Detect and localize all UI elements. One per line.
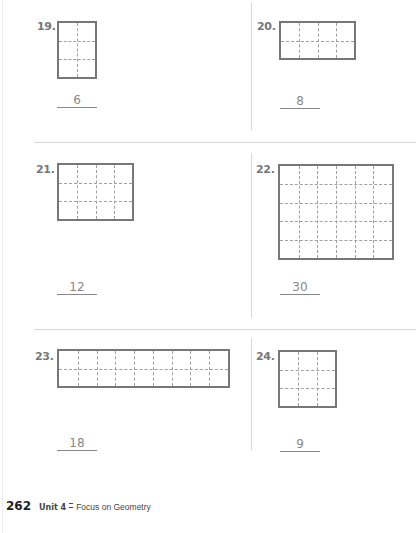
unit-label: Unit 4	[39, 503, 66, 512]
problem-number: 21.	[36, 163, 55, 176]
answer-line	[280, 451, 320, 452]
answer-line	[57, 294, 97, 295]
unit-title: Focus on Geometry	[76, 502, 151, 512]
answer-value: 9	[280, 437, 320, 451]
rectangle-grid	[278, 350, 337, 408]
rectangle-grid	[57, 163, 134, 221]
rectangle-grid	[57, 21, 97, 79]
column-divider-1	[251, 3, 252, 130]
rectangle-grid	[57, 349, 230, 388]
answer-value: 12	[57, 280, 97, 294]
answer-value: 30	[280, 280, 320, 294]
grid-column-line	[355, 166, 356, 258]
answer-line	[280, 294, 320, 295]
answer-line	[280, 108, 320, 109]
separator-icon	[69, 503, 73, 508]
grid-row-line	[280, 184, 392, 185]
grid-column-line	[298, 352, 299, 406]
page-footer: 262 Unit 4Focus on Geometry	[6, 496, 151, 514]
row-divider-2	[34, 329, 416, 330]
grid-column-line	[373, 166, 374, 258]
grid-column-line	[299, 166, 300, 258]
grid-column-line	[317, 166, 318, 258]
problem-number: 22.	[256, 163, 275, 176]
grid-row-line	[281, 41, 354, 42]
grid-column-line	[77, 165, 78, 219]
problem-number: 24.	[256, 350, 275, 363]
grid-column-line	[336, 166, 337, 258]
grid-row-line	[59, 41, 95, 42]
grid-column-line	[114, 165, 115, 219]
grid-row-line	[280, 240, 392, 241]
grid-column-line	[77, 23, 78, 77]
answer-line	[57, 450, 97, 451]
grid-column-line	[317, 352, 318, 406]
page-edge-line	[2, 0, 3, 533]
grid-row-line	[59, 369, 228, 370]
answer-value: 18	[57, 436, 97, 450]
page-number: 262	[6, 499, 31, 513]
grid-row-line	[280, 388, 335, 389]
answer-line	[57, 107, 97, 108]
grid-row-line	[59, 201, 132, 202]
column-divider-3	[251, 338, 252, 450]
grid-column-line	[96, 165, 97, 219]
row-divider-1	[34, 142, 416, 143]
problem-number: 23.	[35, 350, 54, 363]
problem-number: 20.	[257, 20, 276, 33]
problem-number: 19.	[37, 20, 56, 33]
grid-row-line	[280, 370, 335, 371]
rectangle-grid	[279, 21, 356, 60]
answer-value: 6	[57, 93, 97, 107]
column-divider-2	[251, 153, 252, 318]
answer-value: 8	[280, 94, 320, 108]
grid-row-line	[280, 203, 392, 204]
grid-row-line	[59, 59, 95, 60]
grid-row-line	[280, 221, 392, 222]
rectangle-grid	[278, 164, 394, 260]
grid-row-line	[59, 183, 132, 184]
